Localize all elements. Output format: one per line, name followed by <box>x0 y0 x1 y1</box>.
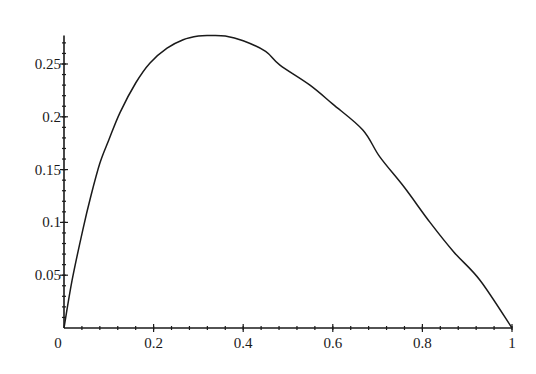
axes <box>64 35 512 328</box>
tick-labels: 00.20.40.60.810.050.10.150.20.25 <box>35 56 516 351</box>
y-tick-label: 0.15 <box>35 162 61 178</box>
y-tick-label: 0.05 <box>35 267 61 283</box>
y-tick-label: 0.1 <box>42 214 61 230</box>
x-tick-label: 0 <box>54 335 62 351</box>
y-tick-label: 0.2 <box>42 109 61 125</box>
x-tick-label: 1 <box>508 335 516 351</box>
x-tick-label: 0.6 <box>323 335 342 351</box>
x-tick-label: 0.4 <box>234 335 253 351</box>
y-tick-label: 0.25 <box>35 56 61 72</box>
x-tick-label: 0.8 <box>413 335 432 351</box>
x-tick-label: 0.2 <box>144 335 163 351</box>
function-plot: 00.20.40.60.810.050.10.150.20.25 <box>0 0 536 374</box>
ticks <box>60 43 512 332</box>
function-curve <box>64 35 512 328</box>
